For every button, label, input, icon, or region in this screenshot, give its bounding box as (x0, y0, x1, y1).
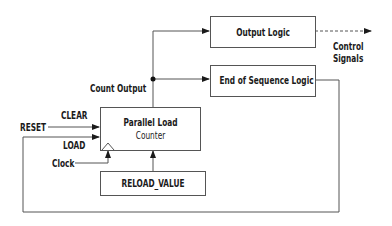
control-signals-label-1: Control (333, 41, 364, 52)
reset-label: RESET (20, 122, 46, 133)
load-label: LOAD (63, 140, 85, 151)
clock-label: Clock (52, 158, 74, 169)
output-logic-label: Output Logic (220, 27, 307, 38)
clear-label: CLEAR (61, 110, 88, 121)
count-output-label: Count Output (90, 83, 146, 94)
control-signals-label-2: Signals (333, 53, 363, 64)
reload-value-label: RELOAD_VALUE (110, 178, 197, 189)
counter-label-1: Parallel Load (109, 117, 192, 128)
counter-label-2: Counter (109, 130, 192, 141)
end-of-sequence-label: End of Sequence Logic (220, 75, 307, 86)
